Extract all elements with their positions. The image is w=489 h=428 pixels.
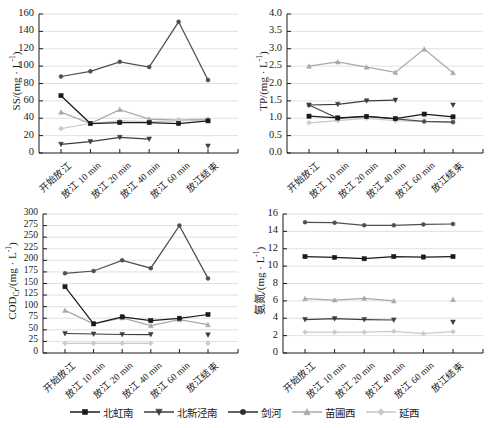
data-point-marker-triangle-down [206,144,211,149]
data-point-marker-square [307,114,311,118]
y-tick-label: 80 [0,77,34,88]
y-tick-label: 4 [245,311,278,322]
legend-swatch-circle-icon [228,406,258,418]
data-point-marker-square [63,285,67,289]
panel-nh: 氨氮/(mg · L-1)0246810121416开始放江放江 10 min放… [245,200,489,399]
data-point-marker-square [392,254,396,258]
data-point-marker-circle [333,221,337,225]
data-point-marker-circle [177,20,181,24]
y-tick-label: 0.0 [245,146,282,157]
y-tick-label: 25 [0,334,38,344]
data-point-marker-square [451,254,455,258]
y-tick-label: 125 [0,288,38,298]
data-point-marker-diamond [307,120,312,125]
legend-item-苗圃西[interactable]: 苗圃西 [292,405,355,420]
data-point-marker-circle [206,276,210,280]
series-line-苗圃西 [309,49,453,73]
y-tick-label: 16 [245,207,278,218]
data-point-marker-square [393,116,397,120]
y-tick-label: 3.0 [245,42,282,53]
y-tick-label: 140 [0,24,34,35]
data-point-marker-diamond [362,330,367,335]
panel-ss: SS/(mg · L-1)020406080100120140160开始放江放江… [0,0,244,199]
y-tick-label: 60 [0,94,34,105]
panel-cod: CODCr/(mg · L-1)025507510012515017520022… [0,200,244,399]
y-tick-label: 175 [0,265,38,275]
data-point-marker-circle [240,409,245,414]
y-tick-label: 225 [0,242,38,252]
data-point-marker-square [422,112,426,116]
y-tick-label: 3.5 [245,24,282,35]
series-line-北新泾南 [65,334,151,335]
legend-label: 北新泾南 [176,405,217,420]
y-tick-label: 100 [0,300,38,310]
data-point-marker-circle [451,222,455,226]
legend-item-北虹南[interactable]: 北虹南 [70,405,133,420]
y-tick-label: 150 [0,277,38,287]
y-tick-label: 100 [0,59,34,70]
y-tick-label: 75 [0,311,38,321]
y-tick-label: 0.5 [245,129,282,140]
y-tick-label: 120 [0,42,34,53]
data-point-marker-square [177,121,181,125]
y-tick-label: 40 [0,111,34,122]
y-tick-label: 1.5 [245,94,282,105]
data-point-marker-triangle-up [117,107,122,112]
data-point-marker-circle [421,222,425,226]
y-tick-label: 0 [0,346,38,356]
data-point-marker-square [303,254,307,258]
data-point-marker-diamond [451,329,456,334]
data-point-marker-circle [149,266,153,270]
data-point-marker-circle [63,271,67,275]
y-tick-label: 2 [245,329,278,340]
data-point-marker-circle [92,269,96,273]
legend-swatch-triangle-up-icon [292,406,322,418]
data-point-marker-triangle-down [451,320,456,325]
y-tick-label: 300 [0,207,38,217]
y-tick-label: 200 [0,253,38,263]
legend-swatch-square-icon [70,406,100,418]
data-point-marker-circle [118,60,122,64]
legend-item-延西[interactable]: 延西 [366,405,419,420]
legend-label: 北虹南 [102,405,133,420]
series-line-延西 [305,331,453,333]
data-point-marker-circle [392,223,396,227]
figure-four-panel-water-quality: SS/(mg · L-1)020406080100120140160开始放江放江… [0,0,489,428]
legend-label: 苗圃西 [324,405,355,420]
series-line-剑河 [305,222,453,225]
data-point-marker-square [92,322,96,326]
legend-item-剑河[interactable]: 剑河 [228,405,281,420]
data-point-marker-triangle-up [451,297,456,302]
data-point-marker-square [149,318,153,322]
y-tick-label: 275 [0,219,38,229]
series-line-苗圃西 [305,298,394,301]
data-point-marker-circle [362,223,366,227]
data-point-marker-diamond [391,329,396,334]
data-point-marker-square [206,119,210,123]
data-point-marker-diamond [332,330,337,335]
data-point-marker-square [362,257,366,261]
data-point-marker-square [59,94,63,98]
data-point-marker-triangle-up [63,308,68,313]
data-point-marker-square [421,255,425,259]
data-point-marker-square [206,312,210,316]
series-line-北新泾南 [61,137,149,144]
series-line-剑河 [65,226,208,279]
data-point-marker-circle [303,220,307,224]
data-point-marker-square [365,114,369,118]
data-point-marker-diamond [378,409,385,416]
data-point-marker-circle [451,120,455,124]
legend-label: 延西 [398,405,419,420]
data-point-marker-triangle-up [59,110,64,115]
legend-item-北新泾南[interactable]: 北新泾南 [144,405,217,420]
data-point-marker-square [118,120,122,124]
y-tick-label: 6 [245,294,278,305]
data-point-marker-diamond [303,330,308,335]
data-point-marker-circle [147,65,151,69]
y-tick-label: 20 [0,129,34,140]
data-point-marker-circle [59,75,63,79]
data-point-marker-square [82,409,87,414]
legend-label: 剑河 [260,405,281,420]
y-tick-label: 4.0 [245,7,282,18]
y-tick-label: 160 [0,7,34,18]
